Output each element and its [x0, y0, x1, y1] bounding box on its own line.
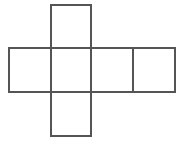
cube-net-svg: [0, 0, 187, 145]
figure-background: [0, 0, 187, 145]
cube-net-figure: [0, 0, 187, 145]
